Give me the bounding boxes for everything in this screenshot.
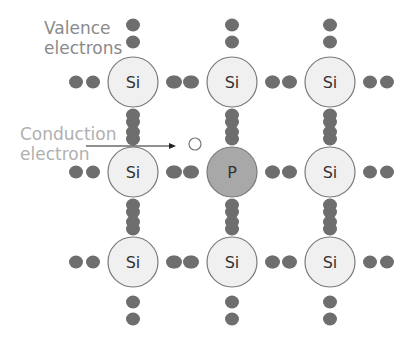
valence-electron <box>225 36 239 49</box>
valence-electron <box>225 126 239 139</box>
valence-electron <box>323 296 337 309</box>
valence-electron <box>283 76 297 89</box>
valence-electron <box>380 256 394 269</box>
conduction-label-line1: Conduction <box>20 124 117 144</box>
valence-electron <box>266 76 280 89</box>
valence-electron <box>168 166 182 179</box>
valence-electron <box>323 36 337 49</box>
valence-electron <box>363 76 377 89</box>
atom-symbol: Si <box>323 253 338 272</box>
valence-electrons-label: Valence electrons <box>44 18 122 58</box>
valence-electron <box>126 126 140 139</box>
conduction-label-line2: electron <box>20 144 117 164</box>
valence-electron <box>168 256 182 269</box>
valence-electron <box>225 216 239 229</box>
valence-electron <box>185 76 199 89</box>
atom-symbol: Si <box>126 73 141 92</box>
atom-symbol: Si <box>323 163 338 182</box>
valence-electron <box>225 199 239 212</box>
valence-electron <box>126 19 140 32</box>
valence-electron <box>69 256 83 269</box>
atom-symbol: Si <box>225 253 240 272</box>
valence-electron <box>126 296 140 309</box>
valence-electron <box>323 313 337 326</box>
valence-electron <box>225 109 239 122</box>
valence-electron <box>363 256 377 269</box>
conduction-electron <box>189 138 201 150</box>
valence-electron <box>225 313 239 326</box>
valence-electron <box>69 166 83 179</box>
valence-electron <box>380 166 394 179</box>
valence-electron <box>283 166 297 179</box>
valence-label-line2: electrons <box>44 38 122 58</box>
conduction-electron-label: Conduction electron <box>20 124 117 164</box>
valence-electron <box>168 76 182 89</box>
valence-electron <box>363 166 377 179</box>
valence-electron <box>225 19 239 32</box>
atom-symbol: Si <box>225 73 240 92</box>
valence-electron <box>323 199 337 212</box>
valence-electron <box>380 76 394 89</box>
valence-electron <box>323 216 337 229</box>
valence-electron <box>225 296 239 309</box>
valence-electron <box>86 76 100 89</box>
valence-electron <box>126 216 140 229</box>
valence-electron <box>86 166 100 179</box>
valence-electron <box>126 36 140 49</box>
valence-electron <box>86 256 100 269</box>
valence-label-line1: Valence <box>44 18 122 38</box>
valence-electron <box>323 19 337 32</box>
valence-electron <box>126 109 140 122</box>
atom-symbol: Si <box>126 163 141 182</box>
valence-electron <box>266 256 280 269</box>
atom-symbol: Si <box>126 253 141 272</box>
arrow-head-icon <box>169 143 176 149</box>
valence-electron <box>323 126 337 139</box>
valence-electron <box>126 313 140 326</box>
valence-electron <box>69 76 83 89</box>
atom-symbol: Si <box>323 73 338 92</box>
valence-electron <box>323 109 337 122</box>
valence-electron <box>283 256 297 269</box>
valence-electron <box>266 166 280 179</box>
valence-electron <box>185 256 199 269</box>
valence-electron <box>185 166 199 179</box>
valence-electron <box>126 199 140 212</box>
atom-symbol: P <box>227 163 237 182</box>
